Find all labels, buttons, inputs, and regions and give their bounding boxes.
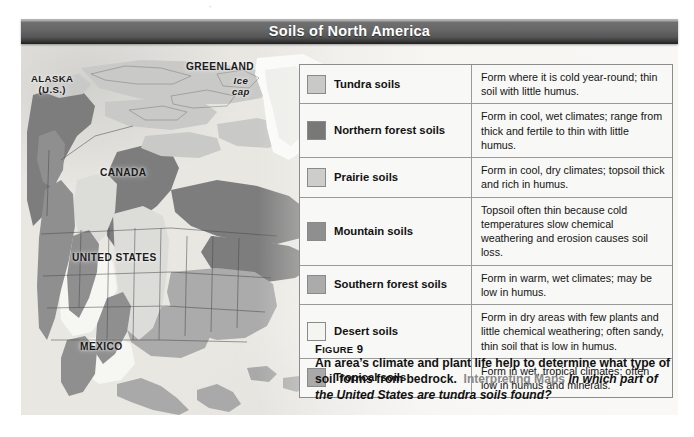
legend-left-cell: Northern forest soils bbox=[300, 104, 472, 157]
map-label-canada: CANADA bbox=[100, 167, 147, 178]
legend-label-southern-forest: Southern forest soils bbox=[334, 278, 447, 291]
legend-left-cell: Southern forest soils bbox=[300, 266, 472, 304]
caption-body-text: An area’s climate and plant life help to… bbox=[315, 356, 675, 403]
legend-description-southern-forest: Form in warm, wet climates; may be low i… bbox=[472, 266, 672, 304]
legend-row-prairie[interactable]: Prairie soils Form in cool, dry climates… bbox=[300, 158, 672, 197]
legend-swatch-southern-forest bbox=[307, 275, 326, 294]
legend-swatch-northern-forest bbox=[307, 121, 326, 140]
legend-row-southern-forest[interactable]: Southern forest soils Form in warm, wet … bbox=[300, 266, 672, 305]
legend-swatch-desert bbox=[307, 322, 326, 341]
legend-label-desert: Desert soils bbox=[334, 325, 398, 338]
legend-description-northern-forest: Form in cool, wet climates; range from t… bbox=[472, 104, 672, 157]
legend-label-prairie: Prairie soils bbox=[334, 171, 398, 184]
legend-label-mountain: Mountain soils bbox=[334, 225, 413, 238]
figure-number-line: FIGURE 9 bbox=[315, 343, 675, 355]
legend-description-prairie: Form in cool, dry climates; topsoil thic… bbox=[472, 158, 672, 196]
page-title: Soils of North America bbox=[269, 23, 430, 39]
figure-number: 9 bbox=[357, 343, 364, 355]
figure-caption: FIGURE 9 An area’s climate and plant lif… bbox=[315, 343, 675, 403]
map-label-united-states: UNITED STATES bbox=[72, 252, 157, 263]
legend-left-cell: Tundra soils bbox=[300, 65, 472, 103]
map-label-greenland: GREENLAND bbox=[186, 61, 254, 72]
legend-left-cell: Mountain soils bbox=[300, 198, 472, 265]
page-bottom-margin bbox=[0, 415, 694, 437]
legend-row-northern-forest[interactable]: Northern forest soils Form in cool, wet … bbox=[300, 104, 672, 158]
map-label-greenland-ice-cap: Ice cap bbox=[232, 76, 250, 97]
legend-row-mountain[interactable]: Mountain soils Topsoil often thin becaus… bbox=[300, 198, 672, 266]
legend-description-mountain: Topsoil often thin because cold temperat… bbox=[472, 198, 672, 265]
legend-swatch-mountain bbox=[307, 222, 326, 241]
map-label-alaska: ALASKA (U.S.) bbox=[31, 74, 73, 95]
legend-left-cell: Prairie soils bbox=[300, 158, 472, 196]
figure-label-rest: IGURE bbox=[322, 344, 353, 355]
figure-soils-of-north-america: ALASKA (U.S.) GREENLAND Ice cap CANADA U… bbox=[0, 0, 694, 420]
legend-swatch-tundra bbox=[307, 75, 326, 94]
legend-row-tundra[interactable]: Tundra soils Form where it is cold year-… bbox=[300, 65, 672, 104]
legend-label-northern-forest: Northern forest soils bbox=[334, 124, 445, 137]
legend-swatch-prairie bbox=[307, 168, 326, 187]
figure-title-bar: Soils of North America bbox=[21, 19, 678, 44]
caption-skill-label: Interpreting Maps bbox=[464, 372, 565, 386]
legend-description-tundra: Form where it is cold year-round; thin s… bbox=[472, 65, 672, 103]
legend-label-tundra: Tundra soils bbox=[334, 78, 400, 91]
map-label-mexico: MEXICO bbox=[80, 341, 123, 352]
